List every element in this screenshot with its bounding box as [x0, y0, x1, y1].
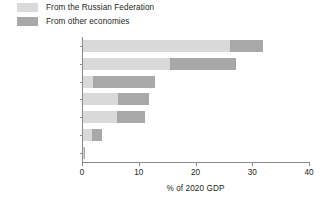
bar-segment-other[interactable]	[230, 40, 263, 52]
stacked-bar[interactable]	[83, 147, 85, 159]
bar-segment-other[interactable]	[93, 76, 155, 88]
bar-row[interactable]: Georgia	[83, 73, 155, 91]
x-axis-tick	[252, 162, 253, 166]
bar-segment-other[interactable]	[118, 93, 149, 105]
bar-segment-other[interactable]	[84, 147, 85, 159]
x-axis-tick	[139, 162, 140, 166]
bar-segment-russia[interactable]	[83, 129, 92, 141]
bar-row[interactable]: Kazakhstan	[83, 144, 85, 162]
bar-segment-other[interactable]	[92, 129, 102, 141]
legend-entry-other: From other economies	[17, 16, 317, 27]
bar-segment-russia[interactable]	[83, 93, 118, 105]
stacked-bar[interactable]	[83, 93, 149, 105]
x-axis-tick	[196, 162, 197, 166]
bar-segment-russia[interactable]	[83, 58, 170, 70]
x-axis-tick-label: 40	[294, 168, 324, 178]
plot-area: Kyrgyz RepublicTajikistanGeorgiaUzbekist…	[82, 37, 309, 162]
stacked-bar[interactable]	[83, 129, 102, 141]
x-axis-tick	[82, 162, 83, 166]
x-axis-tick	[309, 162, 310, 166]
x-axis-title: % of 2020 GDP	[82, 184, 309, 194]
x-axis-tick-label: 30	[237, 168, 267, 178]
stacked-bar[interactable]	[83, 76, 155, 88]
stacked-bar[interactable]	[83, 111, 145, 123]
x-axis-tick-label: 10	[124, 168, 154, 178]
legend-swatch-other	[17, 17, 38, 26]
bar-row[interactable]: Kyrgyz Republic	[83, 37, 263, 55]
bar-row[interactable]: Armenia	[83, 108, 145, 126]
bar-segment-russia[interactable]	[83, 76, 93, 88]
legend-entry-russia: From the Russian Federation	[17, 2, 317, 13]
remittances-bar-chart: From the Russian Federation From other e…	[0, 0, 328, 199]
chart-legend: From the Russian Federation From other e…	[17, 2, 317, 30]
legend-label-other: From other economies	[46, 17, 130, 26]
bar-segment-other[interactable]	[117, 111, 145, 123]
legend-swatch-russia	[17, 3, 38, 12]
bar-row[interactable]: Azerbaijan	[83, 126, 102, 144]
bar-segment-other[interactable]	[170, 58, 236, 70]
bar-segment-russia[interactable]	[83, 40, 230, 52]
bar-segment-russia[interactable]	[83, 111, 117, 123]
x-axis-tick-label: 0	[67, 168, 97, 178]
x-axis-tick-label: 20	[181, 168, 211, 178]
bar-row[interactable]: Tajikistan	[83, 55, 236, 73]
legend-label-russia: From the Russian Federation	[46, 3, 154, 12]
stacked-bar[interactable]	[83, 40, 263, 52]
stacked-bar[interactable]	[83, 58, 236, 70]
bar-row[interactable]: Uzbekistan	[83, 91, 149, 109]
